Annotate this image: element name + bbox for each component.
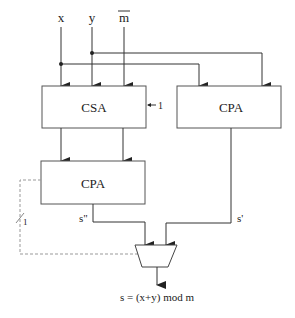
multiplexer: [135, 245, 177, 267]
csa-output-wires: [61, 128, 123, 161]
s-prime-label: s': [237, 212, 243, 224]
modular-adder-diagram: x y m CSA 1 CPA CPA s" s' 1 s = (x+y): [0, 0, 295, 318]
wire-s-double-prime: [93, 204, 145, 245]
input-y-label: y: [89, 10, 96, 25]
output-label: s = (x+y) mod m: [120, 291, 195, 304]
carry-in-label: 1: [158, 100, 163, 111]
wire-y-branch: [92, 53, 262, 86]
input-m-bar-label: m: [119, 10, 129, 25]
carry-in-arrow-icon: [147, 103, 151, 107]
select-width-label: 1: [23, 217, 28, 227]
junction-dot-x: [59, 62, 63, 66]
input-x-label: x: [58, 10, 65, 25]
cpa-left-label: CPA: [81, 176, 106, 191]
wire-s-prime: [166, 128, 231, 245]
junction-dot-y: [90, 51, 94, 55]
input-wires: [61, 27, 262, 86]
csa-label: CSA: [81, 100, 107, 115]
wire-x-branch: [61, 64, 199, 86]
cpa-right-label: CPA: [219, 100, 244, 115]
s-double-prime-label: s": [79, 212, 88, 224]
